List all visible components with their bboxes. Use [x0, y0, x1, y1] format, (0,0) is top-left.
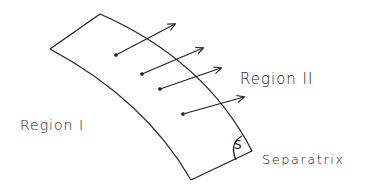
- separatrix-diagram: Region II Region I Separatrix S: [0, 0, 373, 191]
- band-inner-edge: [50, 49, 191, 180]
- flux-arrows: [115, 24, 244, 115]
- band-top-edge: [50, 14, 100, 49]
- band-bottom-edge: [191, 151, 252, 180]
- flux-arrow-4: [183, 97, 244, 114]
- band-outline: [50, 14, 252, 180]
- region-one-label: Region I: [20, 117, 84, 133]
- region-two-label: Region II: [240, 70, 313, 88]
- flux-arrow-2: [142, 48, 203, 74]
- flux-arrow-1: [116, 24, 175, 55]
- band-outer-edge: [100, 14, 252, 151]
- angle-s-label: S: [234, 138, 242, 152]
- separatrix-label: Separatrix: [262, 152, 345, 167]
